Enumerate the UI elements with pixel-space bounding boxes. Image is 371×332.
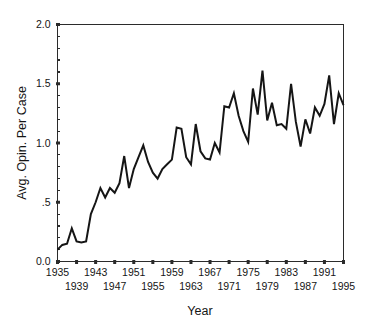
x-tick-label-upper: 1959 xyxy=(160,266,184,278)
y-tick-label: .5 xyxy=(42,196,51,208)
x-tick-label-upper: 1935 xyxy=(46,266,70,278)
x-tick-label-upper: 1983 xyxy=(275,266,299,278)
x-tick-label-lower: 1979 xyxy=(256,280,280,292)
x-tick-label-upper: 1951 xyxy=(122,266,146,278)
x-tick-mark xyxy=(228,260,231,264)
x-tick-mark xyxy=(342,260,345,264)
x-tick-label-lower: 1987 xyxy=(294,280,318,292)
y-tick-mark xyxy=(56,201,60,204)
x-tick-label-upper: 1975 xyxy=(236,266,260,278)
x-tick-mark xyxy=(266,260,269,264)
x-tick-mark xyxy=(75,260,78,264)
data-series-line xyxy=(58,71,344,250)
x-tick-mark xyxy=(151,260,154,264)
x-tick-label-upper: 1943 xyxy=(84,266,108,278)
x-tick-label-lower: 1971 xyxy=(217,280,241,292)
x-tick-mark xyxy=(285,260,288,264)
x-tick-label-lower: 1963 xyxy=(179,280,203,292)
x-tick-mark xyxy=(189,260,192,264)
line-chart: 0.0.51.01.52.0 1935194319511959196719751… xyxy=(0,0,371,332)
x-tick-label-upper: 1991 xyxy=(313,266,337,278)
x-axis-tick-labels-lower: 19391947195519631971197919871995 xyxy=(65,280,355,292)
x-tick-label-upper: 1967 xyxy=(198,266,222,278)
x-tick-mark xyxy=(323,260,326,264)
x-tick-label-lower: 1955 xyxy=(141,280,165,292)
y-tick-mark xyxy=(56,23,60,26)
x-axis-tick-labels-upper: 19351943195119591967197519831991 xyxy=(46,266,336,278)
y-tick-label: 1.0 xyxy=(36,137,51,149)
y-tick-mark xyxy=(56,142,60,145)
y-axis-tick-labels: 0.0.51.01.52.0 xyxy=(36,18,51,267)
x-tick-label-lower: 1995 xyxy=(332,280,356,292)
x-axis-title: Year xyxy=(187,304,212,318)
x-tick-mark xyxy=(170,260,173,264)
y-tick-mark xyxy=(56,82,60,85)
x-tick-mark xyxy=(247,260,250,264)
y-tick-label: 2.0 xyxy=(36,18,51,30)
chart-container: 0.0.51.01.52.0 1935194319511959196719751… xyxy=(0,0,371,332)
y-tick-label: 1.5 xyxy=(36,77,51,89)
x-tick-mark xyxy=(94,260,97,264)
x-tick-label-lower: 1947 xyxy=(103,280,127,292)
x-tick-mark xyxy=(56,260,59,264)
x-tick-label-lower: 1939 xyxy=(65,280,89,292)
x-tick-mark xyxy=(132,260,135,264)
x-tick-mark xyxy=(209,260,212,264)
x-tick-mark xyxy=(113,260,116,264)
x-tick-mark xyxy=(304,260,307,264)
y-axis-title: Avg. Opin. Per Case xyxy=(15,86,29,200)
